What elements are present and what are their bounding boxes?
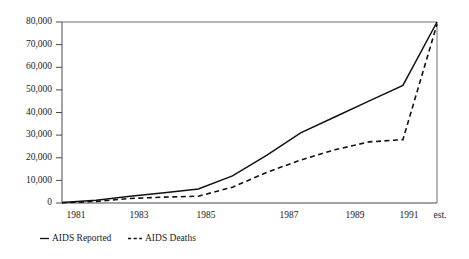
y-tick-label-60000: 60,000 [26, 61, 52, 71]
y-tick-label-70000: 70,000 [26, 39, 52, 49]
x-tick-label-1987: 1987 [280, 210, 299, 220]
y-tick-label-80000: 80,000 [26, 16, 52, 26]
x-tick-label-1989: 1989 [346, 210, 365, 220]
aids-line-chart: 0 10,000 20,000 30,000 40,000 50,000 60,… [0, 0, 469, 259]
x-tick-label-1981: 1981 [67, 210, 86, 220]
x-tick-label-est: est. [434, 210, 447, 220]
y-tick-label-0: 0 [47, 197, 52, 207]
y-axis-tick-labels: 0 10,000 20,000 30,000 40,000 50,000 60,… [26, 16, 52, 207]
y-tick-label-40000: 40,000 [26, 107, 52, 117]
x-tick-label-1985: 1985 [197, 210, 216, 220]
legend-label-aids-deaths: AIDS Deaths [145, 233, 196, 243]
y-tick-label-30000: 30,000 [26, 129, 52, 139]
x-tick-label-1983: 1983 [130, 210, 149, 220]
y-tick-label-50000: 50,000 [26, 84, 52, 94]
y-tick-label-20000: 20,000 [26, 152, 52, 162]
legend-label-aids-reported: AIDS Reported [52, 233, 112, 243]
x-tick-label-1991: 1991 [400, 210, 419, 220]
y-tick-label-10000: 10,000 [26, 175, 52, 185]
chart-background [0, 0, 469, 259]
chart-container: 0 10,000 20,000 30,000 40,000 50,000 60,… [0, 0, 469, 259]
